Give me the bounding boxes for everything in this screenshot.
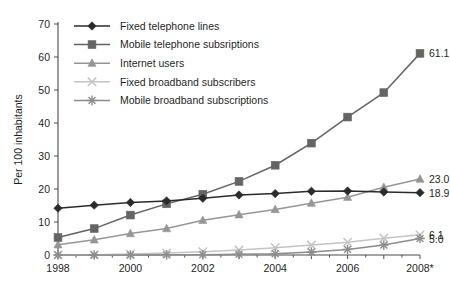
series-end-label: 23.0 (429, 173, 450, 185)
marker-diamond (54, 204, 62, 212)
end-value-labels: 18.961.123.06.15.0 (429, 47, 450, 244)
legend-item-label: Mobile telephone subsriptions (120, 38, 259, 50)
marker-triangle (416, 175, 424, 183)
legend-item[interactable]: Mobile broadband subscriptions (74, 94, 268, 106)
legend-item-label: Fixed telephone lines (120, 20, 219, 32)
y-tick-label: 70 (38, 18, 50, 30)
legend: Fixed telephone linesMobile telephone su… (74, 20, 268, 106)
marker-square (344, 113, 352, 121)
marker-square (271, 161, 279, 169)
series-diamond (54, 187, 424, 213)
legend-item-label: Fixed broadband subscribers (120, 76, 255, 88)
y-tick-label: 50 (38, 84, 50, 96)
marker-square (90, 225, 98, 233)
series-end-label: 61.1 (429, 47, 450, 59)
chart-container: 010203040506070Per 100 inhabitants199820… (0, 0, 450, 294)
legend-item[interactable]: Fixed telephone lines (74, 20, 219, 32)
axes (58, 22, 420, 255)
x-tick-label: 2006 (336, 262, 360, 274)
y-axis-ticks: 010203040506070 (38, 18, 58, 261)
marker-diamond (88, 22, 96, 30)
y-tick-label: 30 (38, 150, 50, 162)
series-end-label: 5.0 (429, 233, 444, 245)
marker-square (380, 89, 388, 97)
marker-square (416, 49, 424, 57)
y-tick-label: 0 (44, 249, 50, 261)
y-tick-label: 20 (38, 183, 50, 195)
marker-diamond (416, 188, 424, 196)
y-axis-title: Per 100 inhabitants (12, 94, 24, 184)
y-tick-label: 60 (38, 51, 50, 63)
y-tick-label: 10 (38, 216, 50, 228)
x-tick-label: 2002 (191, 262, 215, 274)
y-tick-label: 40 (38, 117, 50, 129)
marker-square (235, 178, 243, 186)
line-chart: 010203040506070Per 100 inhabitants199820… (0, 0, 450, 294)
marker-diamond (307, 187, 315, 195)
x-tick-label: 2000 (119, 262, 143, 274)
marker-diamond (235, 191, 243, 199)
marker-square (127, 211, 135, 219)
legend-item[interactable]: Mobile telephone subsriptions (74, 38, 259, 50)
legend-item-label: Mobile broadband subscriptions (120, 94, 268, 106)
marker-square (88, 41, 96, 49)
marker-square (54, 234, 62, 242)
marker-diamond (271, 189, 279, 197)
x-tick-label: 2004 (264, 262, 288, 274)
marker-diamond (343, 187, 351, 195)
series-end-label: 18.9 (429, 187, 450, 199)
legend-item[interactable]: Fixed broadband subscribers (74, 76, 255, 88)
marker-diamond (126, 198, 134, 206)
legend-item[interactable]: Internet users (74, 57, 184, 69)
x-tick-label: 1998 (46, 262, 70, 274)
marker-square (308, 139, 316, 147)
x-tick-label: 2008* (406, 262, 433, 274)
legend-item-label: Internet users (120, 57, 184, 69)
x-axis-ticks: 199820002002200420062008* (46, 255, 433, 274)
marker-diamond (90, 201, 98, 209)
series-triangle (54, 175, 424, 248)
